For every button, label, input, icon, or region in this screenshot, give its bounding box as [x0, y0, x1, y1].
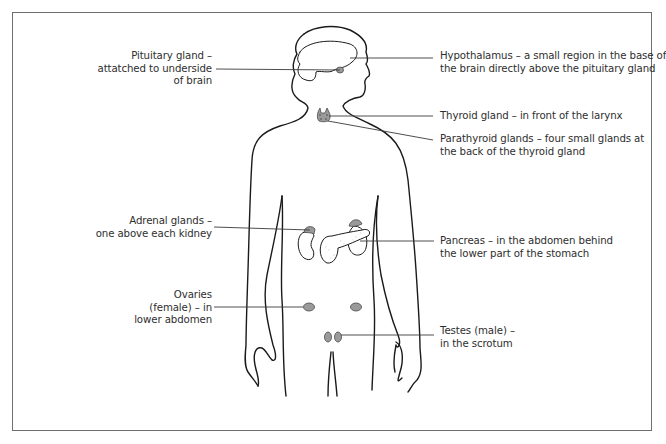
parathyroid-leader — [328, 121, 433, 140]
pituitary-leader — [216, 69, 340, 70]
pancreas-label: Pancreas – in the abdomen behind the low… — [440, 235, 613, 260]
pancreas-label-line-2: the lower part of the stomach — [440, 248, 613, 261]
right-ovary — [351, 303, 362, 311]
adrenal-label-line-1: Adrenal glands – — [96, 215, 212, 228]
right-arm-hand — [396, 342, 402, 381]
thyroid-label: Thyroid gland – in front of the larynx — [440, 110, 622, 123]
ovaries-label-line-3: lower abdomen — [134, 314, 212, 327]
testes-label-line-2: in the scrotum — [440, 338, 515, 351]
adrenal-leader — [214, 227, 310, 230]
parathyroid-label-line-2: the back of the thyroid gland — [440, 146, 644, 159]
svg-text:, ': , ' — [352, 235, 357, 241]
adrenal-label: Adrenal glands – one above each kidney — [96, 215, 212, 240]
testes-label: Testes (male) – in the scrotum — [440, 325, 515, 350]
adrenal-label-line-2: one above each kidney — [96, 228, 212, 241]
thyroid-gland — [317, 108, 330, 122]
ovaries-label-line-1: Ovaries — [134, 289, 212, 302]
right-testis — [335, 332, 342, 342]
ovaries-label-line-2: (female) – in — [134, 302, 212, 315]
svg-text:, ': , ' — [330, 253, 335, 259]
brain-outline — [298, 41, 357, 81]
left-leg — [281, 196, 286, 396]
svg-text:' ,: ' , — [340, 239, 345, 245]
hypothalamus-label-line-2: the brain directly above the pituitary g… — [440, 63, 666, 76]
hypothalamus-label: Hypothalamus – a small region in the bas… — [440, 50, 666, 75]
parathyroid-label-line-1: Parathyroid glands – four small glands a… — [440, 133, 644, 146]
pituitary-label: Pituitary gland – attatched to underside… — [98, 50, 212, 88]
parathyroid-label: Parathyroid glands – four small glands a… — [440, 133, 644, 158]
testes-label-line-1: Testes (male) – — [440, 325, 515, 338]
body-outline — [245, 34, 308, 386]
ovaries-label: Ovaries (female) – in lower abdomen — [134, 289, 212, 327]
left-testis — [325, 332, 332, 342]
inner-leg-right — [333, 352, 337, 396]
thyroid-label-line-1: Thyroid gland – in front of the larynx — [440, 110, 622, 123]
left-arm-inner — [254, 196, 282, 386]
right-adrenal-gland — [349, 220, 362, 227]
body-outline-right — [304, 27, 421, 392]
svg-text:' ,: ' , — [325, 245, 330, 251]
inner-leg-left — [328, 352, 331, 396]
pituitary-label-line-1: Pituitary gland – — [98, 50, 212, 63]
pancreas-label-line-1: Pancreas – in the abdomen behind — [440, 235, 613, 248]
svg-text:': ' — [360, 231, 361, 237]
pituitary-label-line-2: attatched to underside — [98, 63, 212, 76]
left-ovary — [304, 303, 315, 311]
hypothalamus-label-line-1: Hypothalamus – a small region in the bas… — [440, 50, 666, 63]
pituitary-label-line-3: of brain — [98, 75, 212, 88]
left-kidney — [298, 232, 314, 260]
right-arm-inner — [377, 196, 400, 372]
